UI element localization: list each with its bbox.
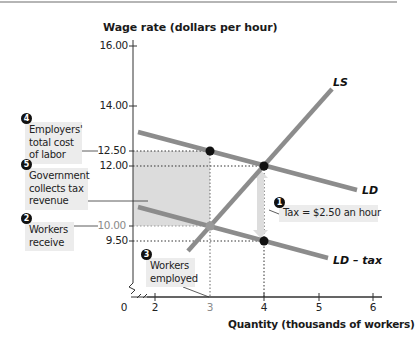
badge-3: 3: [141, 249, 152, 260]
callout-government-revenue: Government collects tax revenue: [25, 168, 88, 210]
ld-label: LD: [362, 184, 378, 197]
x-tick-2: 2: [147, 301, 163, 313]
callout-employers-cost: Employers' total cost of labor: [25, 122, 82, 164]
badge-2: 2: [21, 213, 32, 224]
callout-workers-receive: Workers receive: [25, 222, 74, 251]
x-tick-3: 3: [202, 301, 218, 313]
y-tick-16: 16.00: [84, 39, 128, 51]
callout-text: Workers: [150, 260, 192, 273]
x-tick-6: 6: [365, 301, 381, 313]
y-tick-14: 14.00: [84, 99, 128, 111]
y-tick-12: 12.00: [84, 159, 128, 171]
y-tick-10: 10.00: [82, 219, 126, 231]
callout-text: total cost: [29, 137, 79, 150]
callout-text: Government: [29, 170, 85, 183]
ls-label: LS: [333, 76, 348, 89]
callout-text: Tax = $2.50 an hour: [283, 207, 381, 218]
callout-text: employed: [150, 273, 192, 286]
callout-text: Employers': [29, 124, 79, 137]
point-employer-cost: [206, 147, 215, 156]
point-workers-receive: [206, 222, 215, 231]
tax-gap-arrow: [253, 170, 268, 238]
badge-4: 4: [21, 113, 32, 124]
badge-1: 1: [274, 197, 285, 208]
callout-workers-employed: Workers employed: [146, 258, 195, 287]
callout-text: revenue: [29, 195, 85, 208]
x-axis-title: Quantity (thousands of workers): [228, 318, 415, 330]
ld-tax-label: LD – tax: [333, 254, 382, 267]
point-no-tax-equilibrium: [260, 162, 269, 171]
point-ld-tax: [260, 237, 269, 246]
y-axis-title: Wage rate (dollars per hour): [103, 21, 277, 34]
callout-text: Workers: [29, 224, 71, 237]
x-tick-4: 4: [256, 301, 272, 313]
callout-text: collects tax: [29, 183, 85, 196]
x-tick-0: 0: [116, 301, 132, 313]
callout-tax: Tax = $2.50 an hour: [279, 205, 378, 222]
y-tick-9-50: 9.50: [84, 234, 128, 246]
y-tick-12-50: 12.50: [82, 144, 126, 156]
callout-text: receive: [29, 237, 71, 250]
x-tick-5: 5: [311, 301, 327, 313]
callout-text: of labor: [29, 149, 79, 162]
badge-5: 5: [21, 159, 32, 170]
